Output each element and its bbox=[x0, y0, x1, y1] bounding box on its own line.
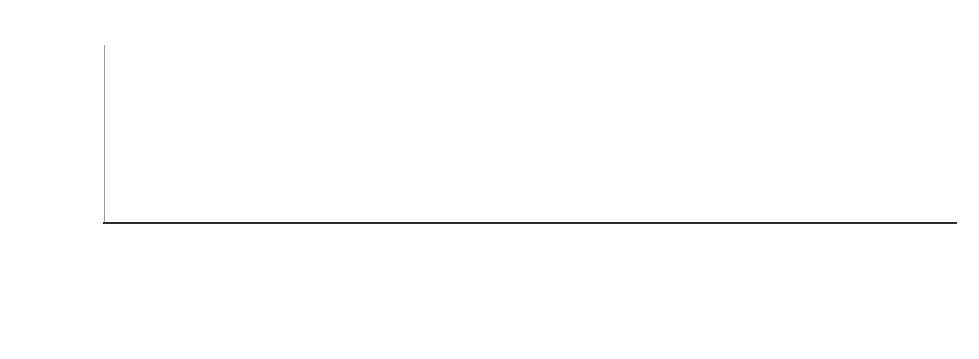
plot-area bbox=[105, 45, 955, 222]
x-axis-labels bbox=[105, 226, 955, 356]
y-axis-line bbox=[104, 45, 105, 223]
stacked-bar-chart bbox=[0, 0, 979, 359]
x-axis-line bbox=[103, 222, 957, 224]
bar-series-container bbox=[105, 45, 955, 222]
